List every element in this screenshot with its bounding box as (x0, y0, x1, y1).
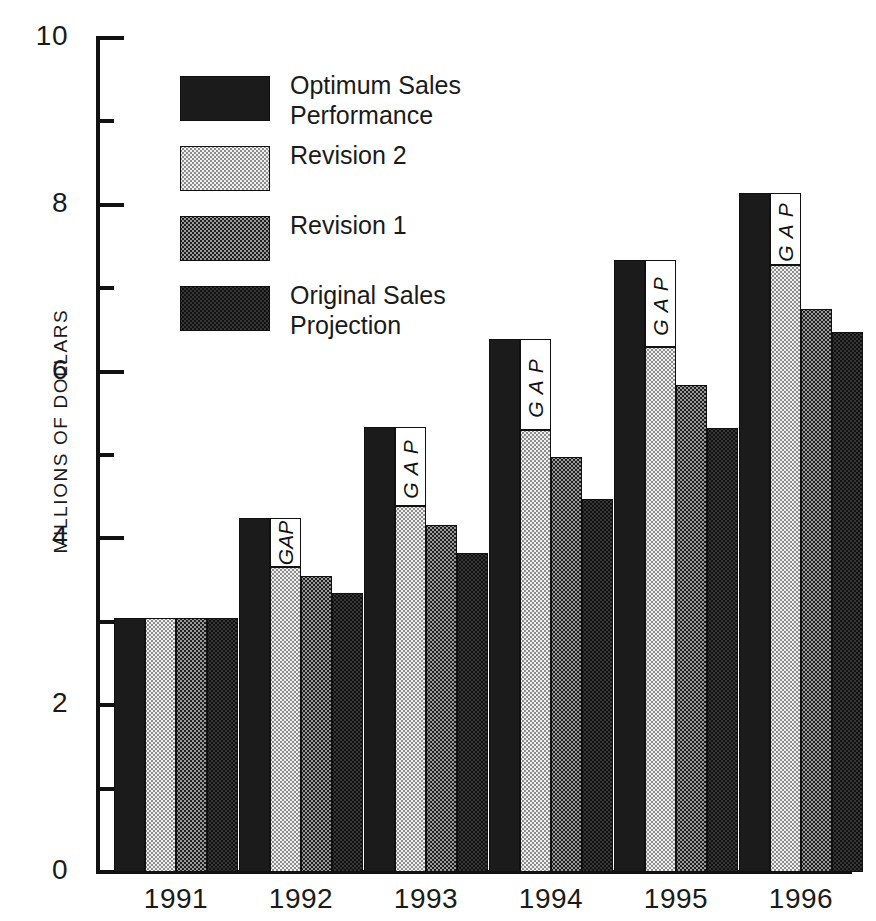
bar-1995-series-4[interactable] (707, 428, 738, 872)
bar-1996-series-1[interactable] (739, 193, 770, 872)
bar-1995-series-2[interactable] (645, 347, 676, 872)
bar-1991-series-3[interactable] (176, 618, 207, 872)
y-tick-label-10: 10 (10, 22, 68, 50)
bar-1996-series-4[interactable] (832, 332, 863, 872)
bar-1991-series-1[interactable] (114, 618, 145, 872)
bar-1996-series-2[interactable] (770, 265, 801, 872)
bar-group-1996: GAP (739, 38, 863, 872)
bar-1995-series-3[interactable] (676, 385, 707, 872)
y-tick-label-8: 8 (10, 189, 68, 217)
bar-1992-series-1[interactable] (239, 518, 270, 872)
legend-swatch-2 (180, 146, 270, 191)
x-tick-label-1991: 1991 (106, 884, 246, 914)
x-tick-label-1992: 1992 (231, 884, 371, 914)
legend-label-1: Optimum Sales Performance (290, 70, 500, 130)
gap-annotation-label-1992: GAP (274, 520, 298, 564)
legend-label-2: Revision 2 (290, 140, 500, 170)
bar-1991-series-2[interactable] (145, 618, 176, 872)
legend-label-4: Original Sales Projection (290, 280, 500, 340)
x-tick-label-1994: 1994 (481, 884, 621, 914)
bar-1993-series-2[interactable] (395, 506, 426, 872)
y-tick-label-2: 2 (10, 689, 68, 717)
x-tick-label-1996: 1996 (731, 884, 871, 914)
bar-1992-series-4[interactable] (332, 593, 363, 872)
gap-annotation-label-1994: GAP (524, 352, 548, 417)
legend-swatch-4 (180, 286, 270, 331)
bar-1994-series-1[interactable] (489, 339, 520, 872)
bar-1993-series-1[interactable] (364, 427, 395, 872)
legend-swatch-1 (180, 76, 270, 121)
y-tick-label-0: 0 (10, 856, 68, 884)
legend-label-3: Revision 1 (290, 210, 500, 240)
chart-legend: Optimum Sales PerformanceRevision 2Revis… (180, 72, 480, 352)
x-tick-label-1995: 1995 (606, 884, 746, 914)
bar-1995-series-1[interactable] (614, 260, 645, 872)
bar-chart: 0246810 MILLIONS OF DOLLARS GAPGAPGAPGAP… (0, 0, 876, 921)
gap-annotation-1995: GAP (645, 260, 676, 347)
y-axis-title: MILLIONS OF DOLLARS (50, 266, 72, 596)
bar-1991-series-4[interactable] (207, 618, 238, 872)
bar-group-1995: GAP (614, 38, 738, 872)
gap-annotation-label-1993: GAP (399, 434, 423, 499)
bar-1994-series-4[interactable] (582, 499, 613, 872)
bar-1993-series-3[interactable] (426, 525, 457, 872)
bar-1994-series-3[interactable] (551, 457, 582, 872)
gap-annotation-label-1995: GAP (649, 271, 673, 336)
bar-group-1994: GAP (489, 38, 613, 872)
bar-1996-series-3[interactable] (801, 309, 832, 872)
gap-annotation-label-1996: GAP (774, 196, 798, 261)
legend-item-2[interactable]: Revision 2 (180, 142, 480, 202)
bar-1992-series-2[interactable] (270, 567, 301, 872)
bar-1993-series-4[interactable] (457, 553, 488, 872)
gap-annotation-1992: GAP (270, 518, 301, 566)
legend-item-4[interactable]: Original Sales Projection (180, 282, 480, 342)
gap-annotation-1996: GAP (770, 193, 801, 265)
bar-1992-series-3[interactable] (301, 576, 332, 872)
legend-item-3[interactable]: Revision 1 (180, 212, 480, 272)
gap-annotation-1994: GAP (520, 339, 551, 430)
bar-1994-series-2[interactable] (520, 430, 551, 872)
legend-swatch-3 (180, 216, 270, 261)
x-tick-label-1993: 1993 (356, 884, 496, 914)
legend-item-1[interactable]: Optimum Sales Performance (180, 72, 480, 132)
gap-annotation-1993: GAP (395, 427, 426, 506)
